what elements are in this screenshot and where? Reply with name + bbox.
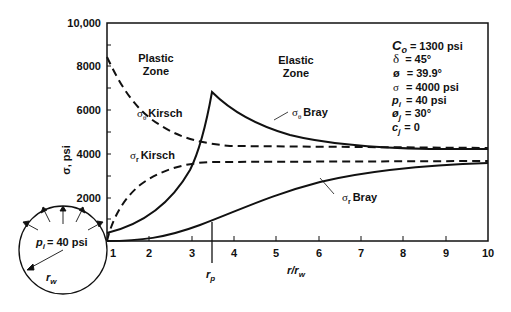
x-tick-8: 8	[400, 247, 406, 259]
label-sigma-theta-bray: σθBray	[274, 106, 329, 121]
svg-text:σθKirsch: σθKirsch	[137, 107, 183, 122]
svg-text:σrKirsch: σrKirsch	[130, 149, 175, 163]
svg-text:σθBray: σθBray	[292, 106, 329, 121]
x-tick-9: 9	[443, 247, 449, 259]
x-tick-2: 2	[146, 247, 152, 259]
y-tick-2000: 2000	[77, 192, 101, 204]
svg-text:σrBray: σrBray	[342, 191, 378, 205]
svg-text:Zone: Zone	[143, 65, 169, 77]
x-tick-4: 4	[231, 247, 238, 259]
x-tick-6: 6	[316, 247, 322, 259]
svg-text:cj= 0: cj= 0	[392, 121, 420, 136]
plastic-zone-label: Plastic Zone	[138, 52, 173, 77]
label-sigma-r-kirsch: σrKirsch	[130, 149, 175, 163]
svg-text:σ= 4000 psi: σ= 4000 psi	[393, 81, 459, 93]
y-tick-8000: 8000	[77, 60, 101, 72]
y-tick-labels: 2000 4000 6000 8000 10,000	[67, 17, 101, 204]
x-tick-7: 7	[358, 247, 364, 259]
svg-text:r/rw: r/rw	[287, 264, 306, 279]
x-tick-10: 10	[482, 247, 494, 259]
svg-text:øj= 30°: øj= 30°	[392, 107, 431, 122]
x-tick-labels: 1 2 3 4 5 6 7 8 9 10	[110, 247, 494, 259]
x-tick-3: 3	[189, 247, 195, 259]
y-axis-label: σ, psi	[60, 145, 72, 175]
svg-text:Elastic: Elastic	[278, 54, 313, 66]
svg-text:Zone: Zone	[283, 67, 309, 79]
stress-chart: 2000 4000 6000 8000 10,000 1 2 3 4 5 6 7…	[0, 0, 511, 312]
y-tick-4000: 4000	[77, 148, 101, 160]
rp-label: rp	[206, 268, 215, 283]
y-tick-6000: 6000	[77, 104, 101, 116]
parameter-list: Co= 1300 psi δ= 45° ø= 39.9° σ= 4000 psi…	[391, 38, 463, 136]
x-tick-1: 1	[110, 247, 116, 259]
curve-sigma-r-kirsch	[107, 161, 488, 241]
x-axis-label: r/rw	[287, 264, 306, 279]
y-tick-10000: 10,000	[67, 17, 101, 29]
svg-text:δ= 45°: δ= 45°	[393, 51, 431, 66]
label-sigma-r-bray: σrBray	[320, 178, 378, 205]
label-sigma-theta-kirsch: σθKirsch	[137, 107, 183, 122]
x-tick-5: 5	[273, 247, 279, 259]
svg-text:Plastic: Plastic	[138, 52, 173, 64]
elastic-zone-label: Elastic Zone	[278, 54, 313, 79]
svg-text:ø= 39.9°: ø= 39.9°	[393, 67, 442, 79]
wellbore-inset: pi= 40 psi rw	[19, 206, 107, 294]
